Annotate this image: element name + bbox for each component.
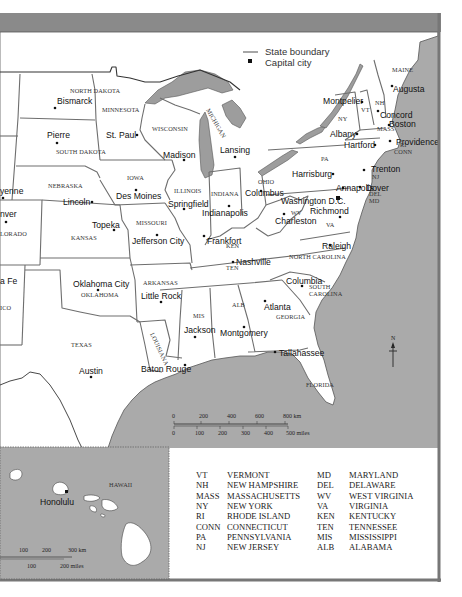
abbr-code: NY [196, 501, 208, 511]
capital-dot-pierre [56, 142, 59, 145]
scale-km-tick: 400 [227, 413, 236, 419]
scale-km-tick: 0 [172, 413, 175, 419]
abbr-code: TEN [317, 522, 334, 532]
state-label-nj: NJ [372, 173, 380, 180]
capital-square-washington-dc [336, 196, 340, 200]
state-label-ny: NY [338, 115, 348, 122]
city-label-montpelier: Montpelier [323, 96, 363, 106]
state-label-georgia: GEORGIA [276, 313, 305, 320]
state-label-kansas: KANSAS [71, 234, 97, 241]
scale-mile-tick: 0 [172, 430, 175, 436]
svg-text:100: 100 [19, 547, 28, 553]
capital-dot-providence [389, 140, 392, 143]
capital-dot-charleston [283, 213, 286, 216]
city-label-cheyenne: yenne [0, 186, 24, 196]
abbr-state-name: WEST VIRGINIA [349, 491, 414, 501]
state-label-pa: PA [321, 155, 329, 162]
city-label-tallahassee: Tallahassee [279, 348, 325, 358]
state-label-wisconsin: WISCONSIN [152, 125, 188, 132]
city-label-lansing: Lansing [220, 145, 250, 155]
state-label-conn: CONN [394, 148, 413, 155]
capital-dot-frankfort [203, 235, 206, 238]
city-label-atlanta: Atlanta [264, 302, 291, 312]
abbr-code: VA [317, 501, 329, 511]
state-label-colorado: LORADO [0, 230, 27, 237]
city-label-santa-fe: a Fe [0, 276, 17, 286]
state-label-wv: WV [291, 209, 302, 216]
scale-km-tick: 800 km [283, 413, 302, 419]
scale-mile-tick: 200 [218, 430, 227, 436]
abbr-state-name: VIRGINIA [349, 501, 389, 511]
city-label-madison: Madison [163, 150, 196, 160]
capital-dot-indianapolis [228, 205, 231, 208]
abbr-state-name: CONNECTICUT [227, 522, 288, 532]
abbr-code: NJ [196, 542, 206, 552]
abbr-state-name: NEW HAMPSHIRE [227, 480, 298, 490]
svg-text:300 km: 300 km [68, 547, 87, 553]
city-label-lincoln: Lincoln [63, 197, 90, 207]
legend-capital-city: Capital city [265, 57, 312, 68]
abbr-code: MASS [196, 491, 220, 501]
abbr-state-name: MASSACHUSETTS [227, 491, 300, 501]
svg-text:100: 100 [27, 563, 36, 569]
city-label-harrisburg: Harrisburg [292, 169, 332, 179]
city-label-montgomery: Montgomery [220, 328, 268, 338]
city-label-washington-d-c: Washington D.C. [281, 196, 346, 206]
city-label-des-moines: Des Moines [116, 191, 161, 201]
city-label-oklahoma-city: Oklahoma City [73, 279, 130, 289]
city-label-topeka: Topeka [92, 220, 120, 230]
capital-dot-lincoln [91, 201, 94, 204]
state-label-illinois: ILLINOIS [174, 187, 202, 194]
city-label-columbia: Columbia [286, 276, 323, 286]
city-label-augusta: Augusta [393, 84, 425, 94]
city-label-jefferson-city: Jefferson City [132, 236, 185, 246]
city-label-bismarck: Bismarck [57, 96, 93, 106]
abbr-code: KEN [317, 511, 335, 521]
abbr-code: NH [196, 480, 208, 490]
abbr-code: DEL [317, 480, 334, 490]
scale-km-tick: 200 [199, 413, 208, 419]
scale-km-tick: 600 [255, 413, 264, 419]
svg-text:N: N [391, 335, 396, 341]
state-label-nebraska: NEBRASKA [48, 182, 83, 189]
state-label-north-dakota: NORTH DAKOTA [70, 87, 121, 94]
capital-dot-dover [359, 186, 362, 189]
capital-dot-oklahoma-city [97, 289, 100, 292]
abbr-state-name: NEW YORK [227, 501, 273, 511]
abbr-code: PA [196, 532, 207, 542]
us-eastern-states-map: State boundary Capital city NORTH DAKOTA… [0, 0, 462, 597]
abbr-state-name: PENNSYLVANIA [227, 532, 292, 542]
city-label-raleigh: Raleigh [322, 241, 351, 251]
abbr-state-name: MISSISSIPPI [349, 532, 397, 542]
state-label-va: VA [326, 221, 335, 228]
abbr-state-name: NEW JERSEY [227, 542, 279, 552]
capital-dot-concord [377, 110, 380, 113]
capital-dot-richmond [339, 216, 342, 219]
state-label-missouri: MISSOURI [136, 219, 167, 226]
state-label-new-mexico: ICO [0, 304, 11, 311]
state-label-carolina: CAROLINA [309, 290, 343, 297]
state-label-minnesota: MINNESOTA [102, 106, 140, 113]
city-label-pierre: Pierre [47, 130, 70, 140]
city-label-columbus: Columbus [245, 188, 284, 198]
city-label-charleston: Charleston [275, 216, 317, 226]
capital-dot-jackson [194, 336, 197, 339]
state-abbreviations-table: VTVERMONTNHNEW HAMPSHIREMASSMASSACHUSETT… [196, 470, 414, 552]
city-label-indianapolis: Indianapolis [202, 208, 248, 218]
capital-dot-tallahassee [274, 351, 277, 354]
state-label-south-dakota: SOUTH DAKOTA [56, 148, 106, 155]
city-label-honolulu: Honolulu [40, 497, 74, 507]
scale-mile-tick: 500 miles [286, 430, 310, 436]
state-label-indiana: INDIANA [211, 190, 239, 197]
capital-dot-nashville [232, 261, 235, 264]
capital-dot-trenton [363, 169, 366, 172]
scale-mile-tick: 300 [241, 430, 250, 436]
state-label-vt: VT [361, 106, 370, 113]
capital-dot-austin [90, 376, 93, 379]
abbr-code: CONN [196, 522, 221, 532]
capital-city-square-icon [248, 59, 252, 63]
state-label-alb: ALB [232, 301, 245, 308]
abbr-code: MD [317, 470, 331, 480]
state-label-maine: MAINE [392, 66, 413, 73]
scale-mile-tick: 100 [195, 430, 204, 436]
